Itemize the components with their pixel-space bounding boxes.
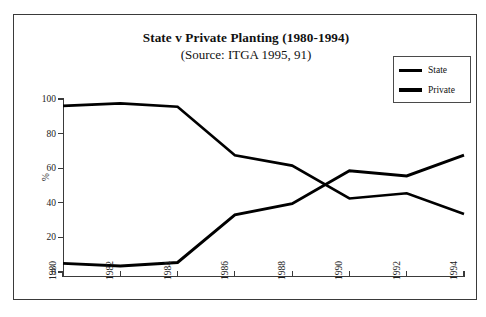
legend-swatch-state [399, 69, 422, 72]
legend-label-state: State [428, 65, 447, 75]
series-group [63, 103, 464, 266]
plot-svg [63, 99, 464, 272]
x-tick-label: 1994 [449, 261, 459, 280]
legend-item-private[interactable]: Private [399, 83, 455, 97]
y-tick-label: 40 [47, 198, 57, 208]
figure-frame: State v Private Planting (1980-1994) (So… [13, 14, 477, 300]
y-tick-label: 20 [47, 232, 57, 242]
y-axis-title: % [41, 173, 51, 181]
legend-swatch-private [399, 88, 422, 92]
x-tick-label: 1992 [392, 261, 402, 280]
x-tick-label: 1988 [277, 261, 287, 280]
series-line-state [63, 103, 464, 214]
axis-group [58, 99, 464, 277]
chart-legend: State Private [393, 56, 471, 103]
x-tick-label: 1990 [334, 261, 344, 280]
x-tick-label: 1982 [105, 261, 115, 280]
y-tick-label: 100 [42, 94, 56, 104]
chart-title: State v Private Planting (1980-1994) [14, 30, 478, 46]
y-tick-label: 60 [47, 163, 57, 173]
legend-label-private: Private [428, 85, 455, 95]
x-tick-label: 1980 [48, 261, 58, 280]
plot-area: 020406080100 198019821984198619881990199… [63, 99, 464, 272]
y-tick-label: 80 [47, 129, 57, 139]
legend-item-state[interactable]: State [399, 63, 447, 77]
x-tick-label: 1984 [163, 261, 173, 280]
x-tick-label: 1986 [220, 261, 230, 280]
series-line-private [63, 155, 464, 266]
